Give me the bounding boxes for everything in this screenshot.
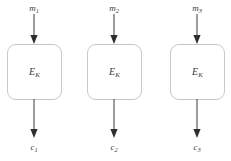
- input-arrow-2: [108, 14, 120, 45]
- encryption-box-label-1: EK: [8, 67, 61, 77]
- plaintext-base-1: m: [29, 3, 36, 13]
- encryption-box-1: EK: [7, 44, 62, 100]
- ciphertext-label-2: c2: [80, 143, 148, 152]
- encryption-box-3: EK: [170, 44, 225, 100]
- encryption-box-label-3: EK: [171, 67, 224, 77]
- plaintext-sub-2: 2: [116, 7, 119, 14]
- plaintext-base-3: m: [192, 3, 199, 13]
- input-arrow-3: [191, 14, 203, 45]
- output-arrow-1: [28, 99, 40, 139]
- input-arrow-1: [28, 14, 40, 45]
- ciphertext-label-3: c3: [163, 143, 231, 152]
- ecb-mode-diagram: m1 EK c1 m2 EK: [0, 0, 231, 161]
- ciphertext-sub-2: 2: [114, 146, 117, 153]
- cipher-block-3: m3 EK c3: [163, 0, 231, 161]
- plaintext-label-1: m1: [0, 4, 68, 13]
- ciphertext-sub-3: 3: [197, 146, 200, 153]
- plaintext-sub-3: 3: [199, 7, 202, 14]
- cipher-block-1: m1 EK c1: [0, 0, 77, 161]
- ciphertext-sub-1: 1: [34, 146, 37, 153]
- cipher-sub-2: K: [115, 71, 120, 79]
- plaintext-sub-1: 1: [36, 7, 39, 14]
- plaintext-base-2: m: [109, 3, 116, 13]
- cipher-block-2: m2 EK c2: [80, 0, 157, 161]
- encryption-box-2: EK: [87, 44, 142, 100]
- ciphertext-label-1: c1: [0, 143, 68, 152]
- cipher-sub-1: K: [35, 71, 40, 79]
- plaintext-label-2: m2: [80, 4, 148, 13]
- plaintext-label-3: m3: [163, 4, 231, 13]
- output-arrow-2: [108, 99, 120, 139]
- cipher-sub-3: K: [198, 71, 203, 79]
- output-arrow-3: [191, 99, 203, 139]
- encryption-box-label-2: EK: [88, 67, 141, 77]
